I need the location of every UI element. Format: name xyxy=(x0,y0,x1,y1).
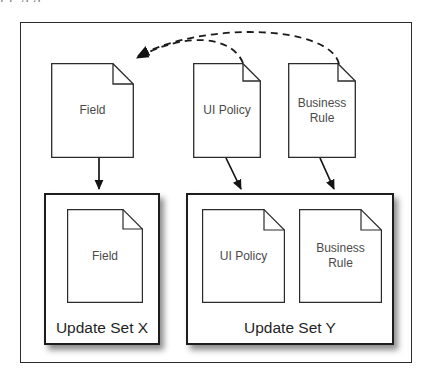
document-field-inner: Field xyxy=(67,209,143,303)
document-label: Business Rule xyxy=(299,209,382,303)
clipped-caption-remnant: j p g g xyxy=(0,0,434,2)
diagram-canvas: j p g g Field UI Policy Business Rule xyxy=(0,0,434,377)
document-label: UI Policy xyxy=(193,63,261,158)
document-ui-policy-top: UI Policy xyxy=(193,63,261,158)
update-set-x-label: Update Set X xyxy=(46,319,158,337)
document-label: Business Rule xyxy=(288,63,356,158)
document-business-rule-inner: Business Rule xyxy=(299,209,382,303)
document-label: Field xyxy=(67,209,143,303)
document-business-rule-top: Business Rule xyxy=(288,63,356,158)
document-label: UI Policy xyxy=(202,209,285,303)
document-field-top: Field xyxy=(51,63,134,158)
document-ui-policy-inner: UI Policy xyxy=(202,209,285,303)
update-set-x-container: Field Update Set X xyxy=(44,193,160,345)
update-set-y-label: Update Set Y xyxy=(188,319,392,337)
document-label: Field xyxy=(51,63,134,158)
update-set-y-container: UI Policy Business Rule Update Set Y xyxy=(186,193,394,345)
